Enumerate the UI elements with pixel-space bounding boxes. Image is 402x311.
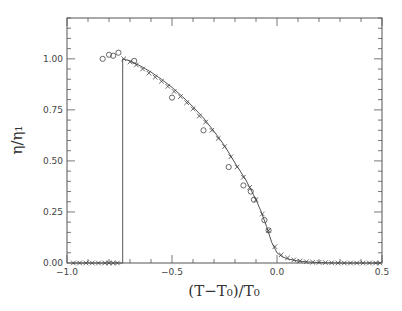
cross-marker [121, 57, 126, 62]
circle-marker [116, 50, 121, 55]
cross-marker [153, 75, 158, 80]
y-tick-labels: 0.000.250.500.751.00 [43, 54, 63, 268]
x-tick-label: −0.5 [161, 267, 183, 277]
y-axis-label: η/η₁ [8, 125, 26, 154]
x-axis-label: (T−T₀)/T₀ [188, 282, 259, 300]
circle-marker [201, 128, 206, 133]
theory-curve [73, 59, 380, 263]
y-tick-label: 0.25 [43, 207, 63, 217]
y-tick-label: 0.75 [43, 105, 63, 115]
x-tick-label: 0.0 [270, 267, 285, 277]
cross-marker [197, 114, 202, 119]
plot-series [71, 50, 382, 265]
circle-marker [100, 56, 105, 61]
y-tick-label: 1.00 [43, 54, 63, 64]
plot-frame [67, 18, 382, 263]
cross-marker [147, 71, 152, 76]
axis-ticks [67, 18, 382, 263]
x-tick-label: −1.0 [56, 267, 78, 277]
line-chart: −1.0−0.50.00.5 0.000.250.500.751.00 (T−T… [0, 0, 402, 311]
circle-marker [226, 164, 231, 169]
circle-marker [169, 95, 174, 100]
x-tick-label: 0.5 [375, 267, 389, 277]
y-tick-label: 0.50 [43, 156, 63, 166]
circle-marker [241, 183, 246, 188]
x-tick-labels: −1.0−0.50.00.5 [56, 267, 389, 277]
y-tick-label: 0.00 [43, 258, 63, 268]
